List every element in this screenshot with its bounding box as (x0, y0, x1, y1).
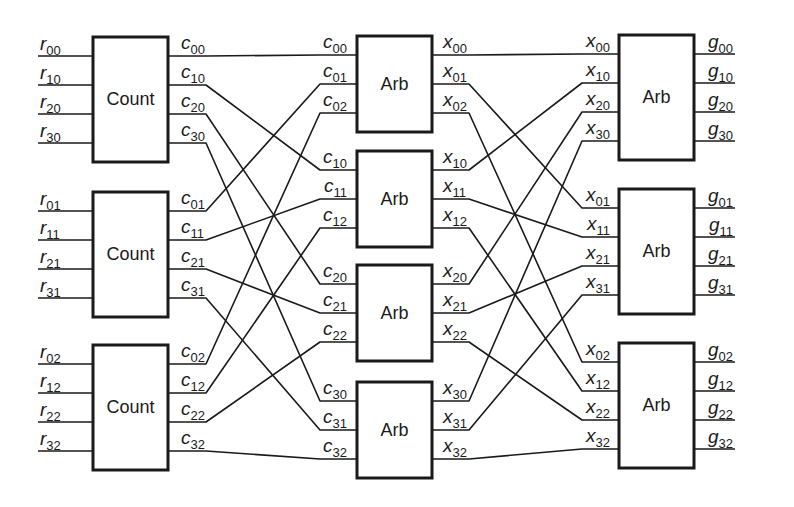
mid-output-label-x11: x11 (442, 175, 466, 200)
out-input-label-x12: x12 (585, 367, 610, 392)
mid-output-label-x10: x10 (442, 146, 467, 171)
grant-label-g01: g01 (708, 185, 733, 210)
mid-arb-block-0: Arb (357, 36, 432, 132)
input-label-r32: r32 (40, 428, 61, 453)
out-input-label-x31: x31 (585, 271, 610, 296)
grant-label-g22: g22 (708, 397, 733, 422)
mid-arb-block-3: Arb (357, 382, 432, 478)
grant-label-g11: g11 (709, 214, 733, 239)
input-label-r21: r21 (40, 246, 61, 271)
grant-label-g10: g10 (708, 60, 733, 85)
out-arb-block-1: Arb (619, 189, 694, 314)
mid-input-label-c00: c00 (323, 31, 347, 56)
grant-label-g31: g31 (708, 272, 733, 297)
count-output-label-c20: c20 (181, 90, 205, 115)
grant-label-g20: g20 (708, 89, 733, 114)
out-input-label-x10: x10 (585, 59, 610, 84)
count-output-label-c02: c02 (181, 340, 205, 365)
count-block-2: Count (93, 345, 168, 470)
mid-output-label-x31: x31 (442, 406, 467, 431)
out-arb-block-2-label: Arb (642, 395, 670, 415)
count-output-label-c32: c32 (181, 427, 205, 452)
count-output-label-c12: c12 (181, 369, 205, 394)
mid-output-label-x20: x20 (442, 260, 467, 285)
mid-output-label-x21: x21 (442, 289, 467, 314)
out-input-label-x01: x01 (585, 184, 610, 209)
input-label-r01: r01 (40, 188, 61, 213)
mid-input-label-c20: c20 (323, 260, 347, 285)
out-arb-block-0-label: Arb (642, 87, 670, 107)
mid-input-label-c31: c31 (323, 406, 347, 431)
mid-output-label-x32: x32 (442, 435, 467, 460)
mid-output-label-x22: x22 (442, 318, 467, 343)
count-output-label-c21: c21 (181, 245, 205, 270)
mid-arb-block-2-label: Arb (380, 303, 408, 323)
input-label-r02: r02 (40, 341, 61, 366)
count-output-label-c30: c30 (181, 119, 205, 144)
input-label-r31: r31 (40, 275, 61, 300)
count-block-0: Count (93, 37, 168, 162)
mid-output-label-x12: x12 (442, 204, 467, 229)
count-output-label-c11: c11 (181, 216, 204, 241)
out-input-label-x22: x22 (585, 396, 610, 421)
grant-label-g12: g12 (708, 368, 733, 393)
count-block-1: Count (93, 192, 168, 317)
out-input-label-x11: x11 (586, 213, 610, 238)
count-output-label-c31: c31 (181, 274, 205, 299)
grant-label-g00: g00 (708, 31, 733, 56)
mid-input-label-c01: c01 (323, 60, 347, 85)
count-block-0-label: Count (106, 89, 154, 109)
grant-label-g02: g02 (708, 339, 733, 364)
mid-output-label-x02: x02 (442, 89, 467, 114)
count-block-2-label: Count (106, 397, 154, 417)
out-arb-block-2: Arb (619, 343, 694, 468)
count-output-label-c10: c10 (181, 61, 205, 86)
mid-input-label-c02: c02 (323, 89, 347, 114)
mid-arb-block-1-label: Arb (380, 189, 408, 209)
input-label-r00: r00 (40, 33, 61, 58)
mid-input-label-c32: c32 (323, 435, 347, 460)
out-input-label-x20: x20 (585, 88, 610, 113)
mid-input-label-c12: c12 (323, 204, 347, 229)
input-label-r12: r12 (40, 370, 61, 395)
mid-input-label-c22: c22 (323, 318, 347, 343)
out-input-label-x00: x00 (585, 30, 610, 55)
mid-output-label-x30: x30 (442, 377, 467, 402)
grant-label-g30: g30 (708, 118, 733, 143)
mid-arb-block-0-label: Arb (380, 74, 408, 94)
out-input-label-x30: x30 (585, 117, 610, 142)
input-label-r10: r10 (40, 62, 61, 87)
grant-label-g21: g21 (708, 243, 733, 268)
grant-label-g32: g32 (708, 426, 733, 451)
count-block-1-label: Count (106, 244, 154, 264)
wire-c12 (168, 228, 357, 393)
mid-arb-block-1: Arb (357, 151, 432, 247)
out-arb-block-0: Arb (619, 35, 694, 160)
mid-arb-block-2: Arb (357, 265, 432, 361)
input-label-r30: r30 (40, 120, 61, 145)
input-label-r11: r11 (40, 217, 60, 242)
input-label-r20: r20 (40, 91, 61, 116)
out-input-label-x32: x32 (585, 425, 610, 450)
out-input-label-x02: x02 (585, 338, 610, 363)
out-input-label-x21: x21 (585, 242, 610, 267)
mid-input-label-c11: c11 (324, 175, 347, 200)
count-output-label-c00: c00 (181, 32, 205, 57)
separable-allocator-diagram: CountCountCountArbArbArbArbArbArbArb r00… (0, 0, 794, 507)
mid-input-label-c30: c30 (323, 377, 347, 402)
count-output-label-c01: c01 (181, 187, 205, 212)
input-label-r22: r22 (40, 399, 61, 424)
out-arb-block-1-label: Arb (642, 241, 670, 261)
mid-output-label-x00: x00 (442, 31, 467, 56)
mid-input-label-c10: c10 (323, 146, 347, 171)
count-output-label-c22: c22 (181, 398, 205, 423)
mid-output-label-x01: x01 (442, 60, 467, 85)
mid-arb-block-3-label: Arb (380, 420, 408, 440)
mid-input-label-c21: c21 (323, 289, 347, 314)
